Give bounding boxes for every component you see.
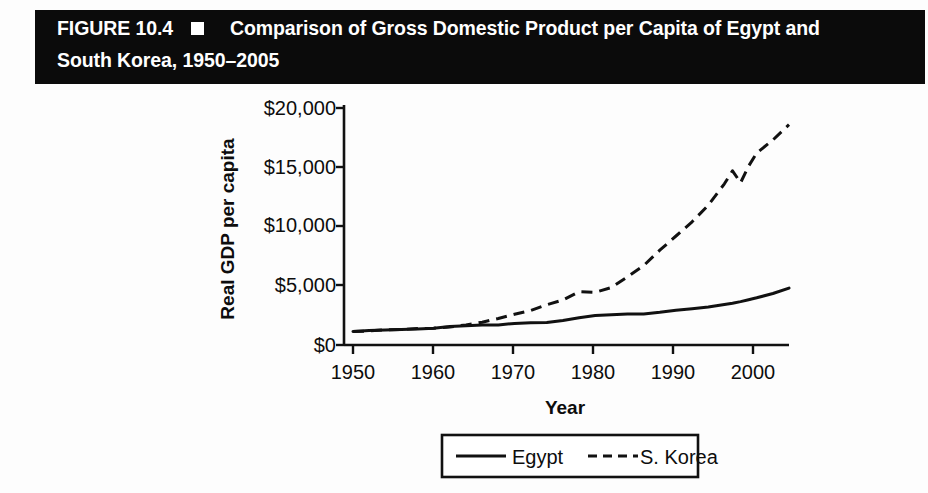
legend-label-egypt: Egypt	[512, 446, 564, 468]
x-tick-label-1950: 1950	[331, 361, 376, 383]
x-tick-label-2000: 2000	[731, 361, 776, 383]
black-square-bullet-icon	[191, 22, 204, 35]
y-axis-tick-labels: $20,000 $15,000 $10,000 $5,000 $0	[264, 97, 336, 356]
y-tick-label-5000: $5,000	[275, 274, 336, 296]
x-axis-title: Year	[545, 397, 586, 418]
figure-title-text-part-1: Comparison of Gross Domestic Product per…	[230, 19, 820, 39]
y-tick-label-15000: $15,000	[264, 156, 336, 178]
x-tick-label-1960: 1960	[411, 361, 456, 383]
x-tick-label-1990: 1990	[651, 361, 696, 383]
series-line-s-korea	[353, 125, 789, 332]
x-tick-label-1980: 1980	[571, 361, 616, 383]
legend-label-s-korea: S. Korea	[640, 446, 719, 468]
figure-title-line-1: FIGURE 10.4 Comparison of Gross Domestic…	[57, 19, 925, 39]
x-axis-tick-labels: 1950 1960 1970 1980 1990 2000	[331, 361, 776, 383]
y-tick-label-20000: $20,000	[264, 97, 336, 119]
x-tick-label-1970: 1970	[491, 361, 536, 383]
figure-title-banner: FIGURE 10.4 Comparison of Gross Domestic…	[35, 10, 925, 84]
chart-legend: Egypt S. Korea	[442, 435, 719, 477]
y-axis-title: Real GDP per capita	[217, 138, 238, 320]
y-tick-label-10000: $10,000	[264, 214, 336, 236]
chart-container: $20,000 $15,000 $10,000 $5,000 $0 Real G…	[0, 84, 928, 493]
x-axis-ticks	[353, 345, 753, 354]
figure-number-label: FIGURE 10.4	[57, 19, 173, 39]
y-tick-label-0: $0	[314, 334, 336, 356]
figure-title-text-part-2: South Korea, 1950–2005	[57, 49, 925, 72]
figure-page: FIGURE 10.4 Comparison of Gross Domestic…	[0, 0, 928, 493]
gdp-line-chart: $20,000 $15,000 $10,000 $5,000 $0 Real G…	[0, 84, 928, 493]
